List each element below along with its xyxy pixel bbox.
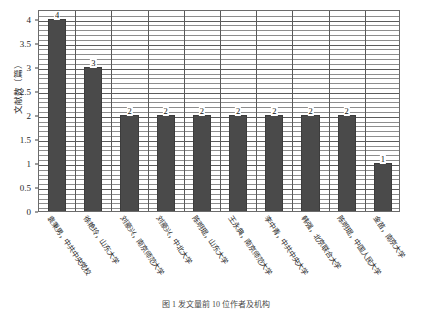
y-tick-label: 0.5: [20, 183, 31, 192]
bar-value-label: 2: [235, 107, 241, 116]
x-category-label: 陈明琨，山东大学: [190, 215, 229, 265]
bar-chart-figure: 文献数（篇） 00.511.522.533.54 4322222221 袁秉男，…: [0, 0, 432, 311]
bar: [84, 67, 102, 211]
bar: [301, 115, 319, 211]
bar: [265, 115, 283, 211]
bar-value-label: 3: [90, 59, 96, 68]
bar-value-label: 2: [307, 107, 313, 116]
bar-value-label: 2: [199, 107, 205, 116]
bar: [374, 163, 392, 211]
bar-value-label: 1: [380, 155, 386, 164]
bar-series: 4322222221: [39, 11, 399, 211]
y-tick-label: 3.5: [20, 39, 31, 48]
y-tick-label: 2: [27, 111, 32, 120]
y-tick-label: 1.5: [20, 135, 31, 144]
bar-value-label: 2: [163, 107, 169, 116]
y-tick-label: 4: [27, 15, 32, 24]
figure-caption: 图 1 发文量前 10 位作者及机构: [0, 300, 432, 310]
x-category-label: 徐艳玲，山东大学: [82, 215, 121, 265]
bar-value-label: 2: [271, 107, 277, 116]
plot-area: 4322222221: [38, 10, 400, 212]
x-axis-category-labels: 袁秉男，中共中央党校徐艳玲，山东大学刘豪兴，南京师范大学刘豪兴，中北大学陈明琨，…: [0, 212, 432, 307]
x-category-label: 金苗，南京大学: [371, 215, 406, 260]
bar: [193, 115, 211, 211]
x-category-label: 刘豪兴，中北大学: [154, 215, 193, 265]
bar: [229, 115, 247, 211]
bar: [338, 115, 356, 211]
y-tick-label: 3: [27, 63, 32, 72]
bar: [120, 115, 138, 211]
y-tick-label: 2.5: [20, 87, 31, 96]
x-category-label: 韩强，北京联合大学: [299, 215, 342, 271]
bar: [157, 115, 175, 211]
bar-value-label: 2: [126, 107, 132, 116]
y-tick-label: 1: [27, 159, 32, 168]
bar: [48, 19, 66, 211]
bar-value-label: 2: [344, 107, 350, 116]
bar-value-label: 4: [54, 11, 60, 20]
